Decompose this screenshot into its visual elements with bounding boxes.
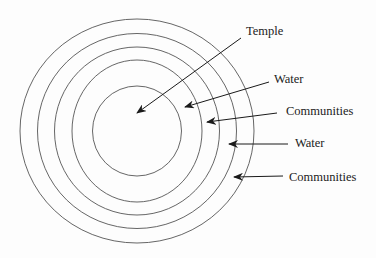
arrow-communities-2 (234, 176, 283, 177)
ring-4 (72, 60, 202, 202)
label-water-inner: Water (274, 73, 304, 86)
label-communities-outer: Communities (289, 171, 356, 184)
label-temple: Temple (246, 25, 283, 38)
ring-3 (55, 47, 220, 215)
arrow-water-1 (185, 82, 269, 107)
label-communities-inner: Communities (286, 105, 353, 118)
ring-outer (20, 19, 254, 243)
arrow-temple (137, 38, 241, 113)
concentric-diagram: Temple Water Communities Water Communiti… (0, 0, 376, 258)
rings-group (20, 19, 254, 243)
label-water-outer: Water (295, 137, 325, 150)
diagram-canvas (0, 0, 376, 258)
ring-inner (93, 86, 182, 176)
arrows-group (137, 38, 288, 177)
